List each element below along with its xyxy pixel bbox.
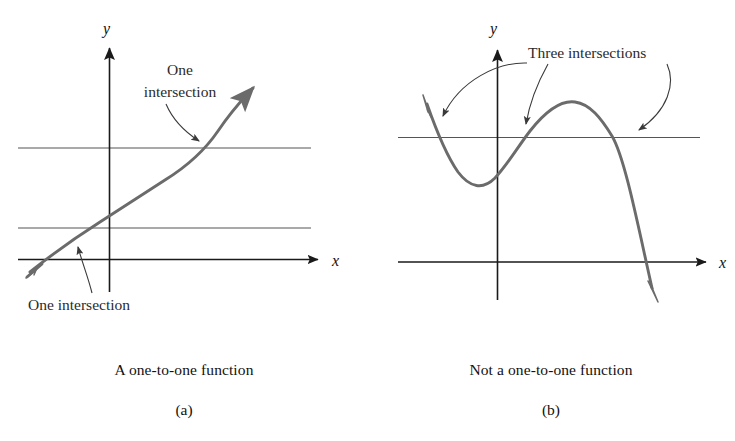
panel-a-one-to-one: x y One intersection One intersection A … — [0, 0, 368, 441]
increasing-function-curve — [30, 88, 253, 272]
annotation-arrow-intersection-3 — [639, 64, 671, 130]
y-axis-label: y — [101, 20, 111, 38]
annotation-top-line1: One — [167, 61, 193, 78]
x-axis-label: x — [331, 252, 339, 269]
annotation-top-arrow — [166, 104, 199, 141]
annotation-three-intersections: Three intersections — [528, 44, 646, 61]
panel-a-caption-title: A one-to-one function — [0, 361, 368, 379]
panel-b-not-one-to-one: x y Three intersections Not a one-to-one… — [367, 0, 735, 441]
x-axis-label: x — [718, 254, 726, 271]
y-axis-label: y — [488, 20, 498, 38]
cubic-function-curve — [427, 102, 652, 288]
curve-start-arrowhead — [423, 95, 431, 117]
annotation-bottom-arrow — [78, 247, 92, 293]
panel-b-caption-label: (b) — [367, 401, 735, 419]
annotation-top-line2: intersection — [144, 83, 217, 100]
panel-a-caption-label: (a) — [0, 401, 368, 419]
annotation-arrow-intersection-1 — [443, 63, 527, 116]
curve-end-arrowhead — [648, 281, 658, 302]
annotation-bottom-label: One intersection — [28, 296, 130, 313]
panel-b-caption-title: Not a one-to-one function — [367, 361, 735, 379]
figure-root: x y One intersection One intersection A … — [0, 0, 735, 441]
